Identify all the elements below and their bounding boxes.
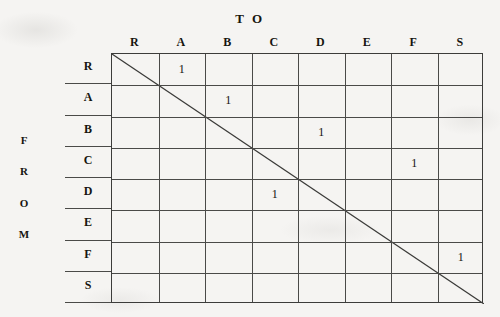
row-header-e: E: [65, 209, 111, 240]
matrix-cell-r-a[interactable]: 1: [159, 54, 206, 85]
from-axis-title: FROM: [13, 125, 35, 250]
matrix-cell-b-d[interactable]: 1: [298, 117, 345, 148]
from-axis-char-r: R: [13, 156, 35, 187]
matrix-cell-a-b[interactable]: 1: [205, 85, 252, 116]
grid-vertical-line: [298, 54, 299, 302]
row-header-s: S: [65, 272, 111, 303]
row-header-label: S: [65, 278, 111, 293]
matrix-cell-f-s[interactable]: 1: [438, 242, 485, 273]
column-header-c: C: [251, 35, 298, 50]
row-header-label: R: [65, 59, 111, 74]
column-header-e: E: [344, 35, 391, 50]
matrix-cell-c-f[interactable]: 1: [391, 148, 438, 179]
to-axis-title: T O: [0, 11, 500, 27]
grid-vertical-line: [345, 54, 346, 302]
column-header-a: A: [158, 35, 205, 50]
transition-matrix-grid[interactable]: 111111: [111, 53, 483, 303]
grid-horizontal-line: [112, 117, 482, 118]
row-header-a: A: [65, 84, 111, 115]
grid-horizontal-line: [112, 242, 482, 243]
row-header-column: RABCDEFS: [65, 53, 111, 303]
column-header-r: R: [111, 35, 158, 50]
grid-horizontal-line: [112, 210, 482, 211]
column-header-row: RABCDEFS: [111, 35, 483, 51]
row-header-label: A: [65, 90, 111, 105]
grid-vertical-line: [252, 54, 253, 302]
from-axis-char-o: O: [13, 188, 35, 219]
column-header-s: S: [437, 35, 484, 50]
row-header-f: F: [65, 241, 111, 272]
from-axis-char-m: M: [13, 219, 35, 250]
row-header-b: B: [65, 116, 111, 147]
row-header-r: R: [65, 53, 111, 84]
row-header-label: C: [65, 153, 111, 168]
from-axis-char-f: F: [13, 125, 35, 156]
row-header-label: F: [65, 247, 111, 262]
column-header-b: B: [204, 35, 251, 50]
row-header-label: E: [65, 215, 111, 230]
grid-horizontal-line: [112, 273, 482, 274]
column-header-d: D: [297, 35, 344, 50]
row-header-d: D: [65, 178, 111, 209]
grid-horizontal-line: [112, 85, 482, 86]
row-header-c: C: [65, 147, 111, 178]
grid-vertical-line: [159, 54, 160, 302]
column-header-f: F: [390, 35, 437, 50]
row-header-label: B: [65, 122, 111, 137]
matrix-cell-d-c[interactable]: 1: [252, 179, 299, 210]
row-header-label: D: [65, 184, 111, 199]
